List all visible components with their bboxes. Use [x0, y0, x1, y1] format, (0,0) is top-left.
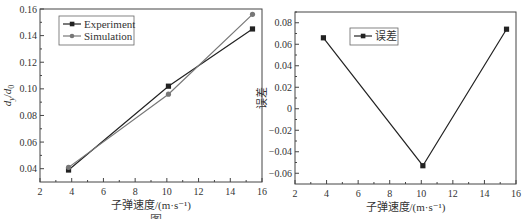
y-tick-label: 0.04 [20, 163, 38, 174]
figure-caption: 图 [150, 213, 162, 219]
x-tick-label: 2 [38, 186, 43, 197]
y-tick-label: −0.06 [269, 168, 292, 179]
figure: 2468101214160.040.060.080.100.120.140.16… [0, 0, 525, 219]
data-point [420, 163, 425, 168]
x-axis-label: 子弹速度/(m·s⁻¹) [111, 198, 191, 212]
legend-entry: Simulation [84, 30, 133, 42]
left-chart-ratio: 2468101214160.040.060.080.100.120.140.16… [1, 4, 267, 213]
right-chart-error: 246810121416−0.06−0.04−0.0200.020.040.06… [255, 12, 521, 214]
y-tick-label: 0.02 [275, 82, 293, 93]
x-tick-label: 14 [479, 188, 489, 199]
x-tick-label: 8 [387, 188, 392, 199]
x-tick-label: 12 [194, 186, 204, 197]
y-tick-label: 0.10 [20, 83, 38, 94]
x-tick-label: 14 [225, 186, 235, 197]
x-axis-label: 子弹速度/(m·s⁻¹) [366, 200, 446, 214]
data-point [250, 12, 255, 17]
y-axis-label: dy/d0 [1, 85, 16, 107]
y-tick-label: −0.02 [269, 125, 292, 136]
y-tick-label: 0.16 [20, 4, 38, 15]
legend: ExperimentSimulation [59, 16, 135, 45]
data-point [504, 27, 509, 32]
x-tick-label: 4 [69, 186, 74, 197]
x-tick-label: 6 [356, 188, 361, 199]
x-tick-label: 12 [448, 188, 458, 199]
legend: 误差 [350, 28, 398, 45]
x-tick-label: 6 [101, 186, 106, 197]
data-point [66, 165, 71, 170]
y-tick-label: 0.06 [20, 137, 38, 148]
y-tick-label: 0.14 [20, 30, 38, 41]
x-tick-label: 2 [293, 188, 298, 199]
y-tick-label: 0.08 [20, 110, 38, 121]
y-axis-label: 误差 [255, 87, 268, 109]
y-tick-label: 0 [287, 103, 292, 114]
legend-entry: Experiment [84, 18, 135, 30]
plot-frame [295, 12, 516, 184]
y-tick-label: −0.04 [269, 146, 292, 157]
series-line [323, 29, 506, 166]
x-tick-label: 10 [162, 186, 172, 197]
legend-entry: 误差 [375, 29, 397, 42]
x-tick-label: 16 [257, 186, 267, 197]
x-tick-label: 8 [133, 186, 138, 197]
y-tick-label: 0.12 [20, 57, 38, 68]
y-tick-label: 0.08 [275, 17, 293, 28]
data-point [166, 84, 171, 89]
y-tick-label: 0.06 [275, 39, 293, 50]
y-tick-label: 0.04 [275, 60, 293, 71]
x-tick-label: 16 [511, 188, 521, 199]
x-tick-label: 4 [324, 188, 329, 199]
data-point [250, 26, 255, 31]
data-point [166, 92, 171, 97]
x-tick-label: 10 [416, 188, 426, 199]
data-point [321, 35, 326, 40]
